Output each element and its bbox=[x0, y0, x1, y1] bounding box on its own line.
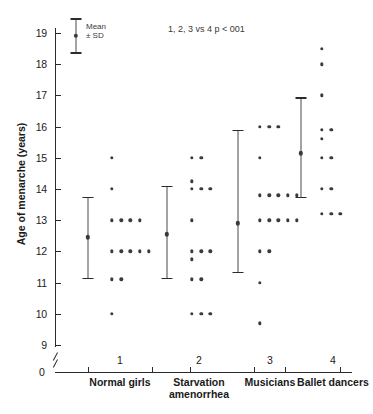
data-point bbox=[286, 194, 289, 197]
data-point bbox=[295, 218, 298, 221]
x-axis-tick bbox=[190, 367, 191, 372]
error-bar-cap-bottom bbox=[296, 197, 307, 199]
data-point bbox=[199, 250, 202, 253]
data-point bbox=[199, 278, 202, 281]
y-axis-tick-label: 15 bbox=[25, 152, 47, 164]
error-bar-line bbox=[301, 97, 302, 198]
mean-marker bbox=[165, 232, 169, 236]
data-point bbox=[110, 218, 113, 221]
data-point bbox=[258, 218, 261, 221]
legend-error-bar bbox=[70, 18, 82, 54]
data-point bbox=[286, 218, 289, 221]
data-point bbox=[258, 194, 261, 197]
x-axis-group-number-2: 2 bbox=[184, 354, 214, 366]
error-bar-3 bbox=[232, 130, 244, 274]
y-axis-origin-label: 0 bbox=[39, 366, 45, 378]
data-point bbox=[138, 250, 141, 253]
error-bar-1 bbox=[82, 197, 94, 280]
data-point bbox=[320, 94, 323, 97]
y-axis-tick bbox=[56, 33, 61, 34]
data-point bbox=[190, 312, 193, 315]
y-axis-tick-label: 12 bbox=[25, 245, 47, 257]
data-point bbox=[110, 187, 113, 190]
data-point bbox=[329, 128, 332, 131]
data-point bbox=[258, 321, 261, 324]
x-axis-group-number-1: 1 bbox=[105, 354, 135, 366]
data-point bbox=[320, 62, 323, 65]
data-point bbox=[110, 156, 113, 159]
data-point bbox=[320, 156, 323, 159]
x-axis-group-number-4: 4 bbox=[318, 354, 348, 366]
data-point bbox=[329, 212, 332, 215]
y-axis-tick bbox=[56, 189, 61, 190]
data-point bbox=[267, 194, 270, 197]
data-point bbox=[258, 125, 261, 128]
mean-marker bbox=[299, 151, 303, 155]
y-axis-tick-label: 18 bbox=[25, 58, 47, 70]
y-axis-tick-label: 11 bbox=[25, 277, 47, 289]
data-point bbox=[277, 194, 280, 197]
y-axis-tick-label: 16 bbox=[25, 121, 47, 133]
data-point bbox=[147, 250, 150, 253]
y-axis-tick bbox=[56, 127, 61, 128]
legend-error-bar-cap-top bbox=[71, 18, 82, 20]
error-bar-cap-top bbox=[296, 97, 307, 99]
data-point bbox=[209, 250, 212, 253]
data-point bbox=[190, 218, 193, 221]
x-axis-tick bbox=[285, 367, 286, 372]
mean-marker bbox=[86, 235, 90, 239]
data-point bbox=[199, 187, 202, 190]
data-point bbox=[110, 312, 113, 315]
error-bar-2 bbox=[161, 186, 173, 280]
y-axis-tick bbox=[56, 220, 61, 221]
mean-marker bbox=[236, 221, 240, 225]
data-point bbox=[199, 156, 202, 159]
error-bar-cap-bottom bbox=[233, 272, 244, 274]
y-axis-tick bbox=[56, 158, 61, 159]
data-point bbox=[190, 257, 193, 260]
data-point bbox=[119, 278, 122, 281]
data-point bbox=[320, 187, 323, 190]
significance-annotation: 1, 2, 3 vs 4 p < 001 bbox=[168, 24, 245, 34]
data-point bbox=[110, 250, 113, 253]
data-point bbox=[190, 250, 193, 253]
data-point bbox=[119, 218, 122, 221]
legend-error-bar-cap-bottom bbox=[71, 52, 82, 54]
data-point bbox=[209, 187, 212, 190]
data-point bbox=[339, 212, 342, 215]
y-axis-tick bbox=[56, 95, 61, 96]
data-point bbox=[258, 281, 261, 284]
data-point bbox=[129, 250, 132, 253]
y-axis-tick bbox=[56, 283, 61, 284]
x-axis-group-label-4: Ballet dancers bbox=[287, 377, 373, 389]
data-point bbox=[199, 312, 202, 315]
data-point bbox=[267, 250, 270, 253]
y-axis-tick-label: 19 bbox=[25, 27, 47, 39]
data-point bbox=[320, 47, 323, 50]
data-point bbox=[258, 156, 261, 159]
y-axis-tick bbox=[56, 64, 61, 65]
y-axis-tick-label: 14 bbox=[25, 183, 47, 195]
x-axis-group-number-3: 3 bbox=[255, 354, 285, 366]
data-point bbox=[267, 125, 270, 128]
data-point bbox=[277, 218, 280, 221]
data-point bbox=[209, 312, 212, 315]
data-point bbox=[267, 218, 270, 221]
y-axis-tick-label: 10 bbox=[25, 308, 47, 320]
y-axis-tick-label: 13 bbox=[25, 214, 47, 226]
data-point bbox=[190, 179, 193, 182]
data-point bbox=[329, 156, 332, 159]
error-bar-line bbox=[238, 130, 239, 274]
data-point bbox=[129, 218, 132, 221]
y-axis-line bbox=[55, 28, 56, 347]
data-point bbox=[138, 218, 141, 221]
data-point bbox=[329, 187, 332, 190]
legend-label-sd: ± SD bbox=[86, 31, 104, 40]
legend-label-mean: Mean bbox=[86, 22, 106, 31]
error-bar-cap-top bbox=[83, 197, 94, 199]
x-axis-line bbox=[55, 372, 352, 373]
error-bar-cap-top bbox=[162, 186, 173, 188]
legend-mean-marker bbox=[74, 34, 78, 38]
y-axis-tick bbox=[56, 314, 61, 315]
